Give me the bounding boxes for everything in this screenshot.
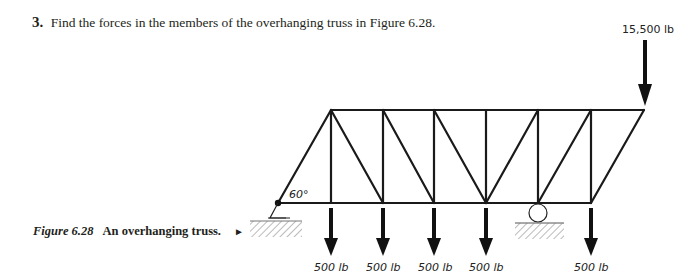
load-label: 500 lb [574, 261, 609, 274]
right-end-diagonal [591, 110, 644, 203]
top-load-arrow-icon [638, 40, 652, 106]
roller-support [515, 204, 564, 239]
load-label: 500 lb [366, 261, 401, 274]
load-label: 500 lb [418, 261, 453, 274]
angle-label: 60° [289, 188, 309, 201]
pin-support [250, 200, 302, 237]
truss-members [278, 110, 644, 203]
top-load-label: 15,500 lb [622, 23, 674, 36]
load-label: 500 lb [469, 261, 504, 274]
load-label: 500 lb [314, 261, 349, 274]
truss-diagram: 60° 15,500 lb 500 lb 500 lb 500 lb 500 l… [0, 0, 693, 278]
